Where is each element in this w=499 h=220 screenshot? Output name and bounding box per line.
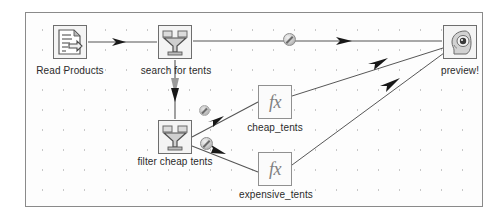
pipeline-editor-screen: Read Products search for tents filter ch… [0, 0, 499, 220]
fx-icon: fx [269, 159, 281, 180]
node-preview[interactable] [443, 25, 477, 59]
disabled-badge-filter-cheap[interactable] [199, 105, 210, 116]
head-preview-icon [445, 27, 475, 57]
disabled-badge-search-preview[interactable] [283, 33, 296, 46]
node-label-search-for-tents: search for tents [129, 65, 223, 76]
disabled-badge-filter-expensive[interactable] [200, 137, 213, 150]
document-icon [55, 27, 85, 57]
node-cheap-tents[interactable]: fx [258, 85, 292, 119]
node-label-filter-cheap-tents: filter cheap tents [124, 156, 226, 167]
node-filter-cheap-tents[interactable] [158, 120, 192, 154]
node-read-products[interactable] [53, 25, 87, 59]
node-label-cheap-tents: cheap_tents [233, 122, 317, 133]
node-label-preview: preview! [432, 65, 488, 76]
funnel-icon [160, 122, 190, 152]
node-label-read-products: Read Products [29, 65, 111, 76]
funnel-icon [160, 27, 190, 57]
node-label-expensive-tents: expensive_tents [226, 189, 326, 200]
node-search-for-tents[interactable] [158, 25, 192, 59]
fx-icon: fx [269, 92, 281, 113]
pipeline-canvas[interactable] [25, 12, 483, 207]
node-expensive-tents[interactable]: fx [258, 152, 292, 186]
